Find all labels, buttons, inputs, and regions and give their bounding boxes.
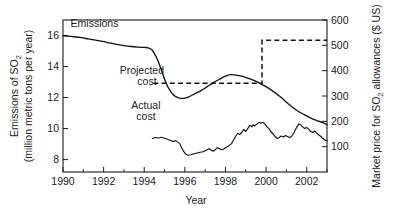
y-left-tick-label-10: 10: [47, 122, 59, 134]
series-actual-cost-line: [152, 122, 327, 155]
x-axis-title: Year: [185, 194, 207, 206]
series-emissions-line: [63, 36, 327, 125]
x-tick-label-2000: 2000: [254, 175, 278, 187]
y-left-tick-label-12: 12: [47, 91, 59, 103]
y-right-tick-label-500: 500: [331, 39, 349, 51]
y-right-tick-label-300: 300: [331, 90, 349, 102]
y-right-tick-label-600: 600: [331, 14, 349, 26]
x-tick-label-2002: 2002: [295, 175, 319, 187]
so2-emissions-allowance-price-chart: 1990199219941996199820002002 810121416 1…: [0, 0, 394, 217]
x-tick-label-1990: 1990: [51, 175, 75, 187]
x-tick-label-1998: 1998: [214, 175, 238, 187]
chart-figure: 1990199219941996199820002002 810121416 1…: [0, 0, 394, 217]
y-left-tick-label-16: 16: [47, 29, 59, 41]
plot-frame: [63, 20, 327, 172]
y-axis-right-tick-labels: 100200300400500600: [331, 14, 349, 153]
y-right-tick-label-200: 200: [331, 115, 349, 127]
annotation-projected-cost-line2: cost: [137, 75, 156, 87]
y-left-tick-label-8: 8: [53, 153, 59, 165]
y-axis-left-title-line1: Emissions of SO2: [8, 55, 23, 137]
y-right-tick-label-100: 100: [331, 140, 349, 152]
x-axis-major-ticks: [63, 167, 307, 172]
y-axis-left-title-line2: (million metric tons per year): [22, 30, 34, 162]
y-axis-left-tick-labels: 810121416: [47, 29, 59, 165]
y-right-tick-label-400: 400: [331, 64, 349, 76]
annotation-actual-cost-line2: cost: [136, 110, 155, 122]
y-axis-right-ticks: [322, 20, 327, 147]
y-left-tick-label-14: 14: [47, 60, 59, 72]
series-projected-cost-line: [153, 40, 327, 83]
y-axis-left-ticks: [63, 36, 68, 160]
x-tick-label-1996: 1996: [173, 175, 197, 187]
x-tick-label-1994: 1994: [133, 175, 157, 187]
annotation-emissions: Emissions: [71, 17, 119, 29]
y-axis-right-title: Market price for SO2 allowances ($ US): [370, 4, 385, 187]
x-tick-label-1992: 1992: [92, 175, 116, 187]
x-axis-tick-labels: 1990199219941996199820002002: [51, 175, 318, 187]
